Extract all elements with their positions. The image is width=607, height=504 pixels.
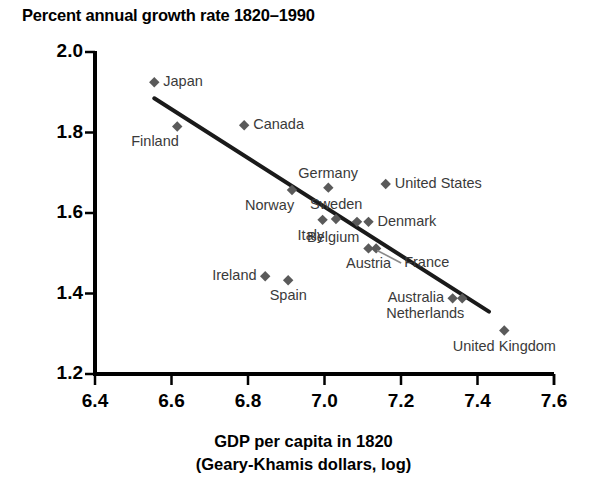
y-tick-1.2: 1.2 — [37, 362, 83, 384]
point-label-ireland: Ireland — [212, 268, 256, 283]
marker-spain — [283, 275, 293, 285]
x-tick-7.4: 7.4 — [448, 390, 508, 412]
marker-japan — [149, 77, 159, 87]
marker-italy — [317, 215, 327, 225]
point-label-norway: Norway — [245, 198, 294, 213]
x-tick-6.6: 6.6 — [142, 390, 202, 412]
point-label-australia: Australia — [388, 290, 444, 305]
x-tick-7.2: 7.2 — [371, 390, 431, 412]
point-label-germany: Germany — [298, 166, 358, 181]
marker-germany — [323, 182, 333, 192]
marker-austria — [363, 243, 373, 253]
marker-united-kingdom — [499, 325, 509, 335]
point-label-belgium: Belgium — [307, 230, 359, 245]
y-tick-2.0: 2.0 — [37, 40, 83, 62]
x-tick-7.6: 7.6 — [524, 390, 584, 412]
x-tick-7.0: 7.0 — [295, 390, 355, 412]
point-label-finland: Finland — [131, 134, 179, 149]
y-tick-1.6: 1.6 — [37, 201, 83, 223]
point-label-canada: Canada — [253, 117, 304, 132]
point-label-austria: Austria — [346, 256, 391, 271]
x-tick-6.8: 6.8 — [218, 390, 278, 412]
point-label-france: France — [404, 255, 449, 270]
point-label-denmark: Denmark — [377, 214, 436, 229]
point-label-united-kingdom: United Kingdom — [453, 339, 556, 354]
marker-denmark — [363, 217, 373, 227]
y-tick-1.8: 1.8 — [37, 121, 83, 143]
point-label-japan: Japan — [163, 74, 203, 89]
point-label-netherlands: Netherlands — [386, 306, 464, 321]
point-label-spain: Spain — [270, 288, 307, 303]
marker-united-states — [381, 179, 391, 189]
marker-australia — [447, 293, 457, 303]
marker-finland — [172, 121, 182, 131]
y-tick-1.4: 1.4 — [37, 282, 83, 304]
plot-area — [0, 0, 607, 504]
point-label-sweden: Sweden — [310, 197, 362, 212]
x-axis-title-line2: (Geary-Khamis dollars, log) — [0, 455, 607, 474]
marker-canada — [239, 120, 249, 130]
x-axis-title-line1: GDP per capita in 1820 — [0, 432, 607, 451]
marker-ireland — [260, 271, 270, 281]
chart-container: Percent annual growth rate 1820–1990 1.2… — [0, 0, 607, 504]
x-tick-6.4: 6.4 — [65, 390, 125, 412]
point-label-united-states: United States — [395, 176, 482, 191]
